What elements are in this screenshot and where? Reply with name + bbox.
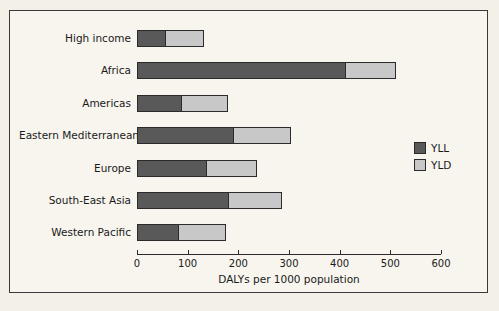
chart-row: Europe xyxy=(10,158,441,179)
bar-segment-yld xyxy=(228,192,283,209)
bar-segment-yll xyxy=(137,30,166,47)
category-label: Africa xyxy=(19,60,137,81)
stacked-bar xyxy=(137,95,228,112)
bar-segment-yld xyxy=(178,224,226,241)
bar-segment-yll xyxy=(137,192,229,209)
x-axis-tick-label: 600 xyxy=(421,258,461,269)
x-axis-tick xyxy=(390,250,391,254)
stacked-bar xyxy=(137,160,257,177)
bar-segment-yll xyxy=(137,127,234,144)
x-axis-tick xyxy=(340,250,341,254)
x-axis-tick xyxy=(441,250,442,254)
bar-segment-yld xyxy=(181,95,228,112)
bar-segment-yld xyxy=(206,160,257,177)
x-axis-tick xyxy=(188,250,189,254)
legend-item-yll: YLL xyxy=(414,141,451,155)
chart-row: Eastern Mediterranean xyxy=(10,125,441,146)
x-axis-tick-label: 400 xyxy=(320,258,360,269)
chart-row: Africa xyxy=(10,60,441,81)
chart-legend: YLL YLD xyxy=(414,141,451,175)
stacked-bar xyxy=(137,30,204,47)
chart-frame: High incomeAfricaAmericasEastern Mediter… xyxy=(9,10,488,293)
stacked-bar xyxy=(137,62,396,79)
legend-swatch-yld xyxy=(414,159,426,171)
x-axis-tick xyxy=(238,250,239,254)
bar-segment-yll xyxy=(137,160,207,177)
chart-screenshot: High incomeAfricaAmericasEastern Mediter… xyxy=(0,0,499,311)
chart-row: Western Pacific xyxy=(10,222,441,243)
stacked-bar xyxy=(137,192,282,209)
x-axis-tick-label: 0 xyxy=(117,258,157,269)
x-axis-line xyxy=(137,254,441,255)
chart-row: South-East Asia xyxy=(10,190,441,211)
bar-segment-yll xyxy=(137,224,179,241)
legend-label-yll: YLL xyxy=(431,142,449,154)
bar-segment-yll xyxy=(137,95,182,112)
stacked-bar xyxy=(137,127,291,144)
stacked-bar xyxy=(137,224,226,241)
x-axis-title: DALYs per 1000 population xyxy=(137,273,441,285)
x-axis-tick-label: 200 xyxy=(218,258,258,269)
chart-row: High income xyxy=(10,28,441,49)
category-label: High income xyxy=(19,28,137,49)
category-label: Western Pacific xyxy=(19,222,137,243)
chart-row: Americas xyxy=(10,93,441,114)
legend-item-yld: YLD xyxy=(414,158,451,172)
bar-segment-yld xyxy=(233,127,291,144)
legend-swatch-yll xyxy=(414,142,426,154)
x-axis-tick xyxy=(137,250,138,254)
bar-segment-yld xyxy=(345,62,396,79)
x-axis-tick-label: 100 xyxy=(168,258,208,269)
bar-segment-yld xyxy=(165,30,204,47)
category-label: Europe xyxy=(19,158,137,179)
bar-segment-yll xyxy=(137,62,346,79)
category-label: Eastern Mediterranean xyxy=(19,125,137,146)
x-axis-tick-label: 300 xyxy=(269,258,309,269)
x-axis-tick xyxy=(289,250,290,254)
legend-label-yld: YLD xyxy=(431,159,451,171)
category-label: Americas xyxy=(19,93,137,114)
category-label: South-East Asia xyxy=(19,190,137,211)
x-axis-tick-label: 500 xyxy=(370,258,410,269)
